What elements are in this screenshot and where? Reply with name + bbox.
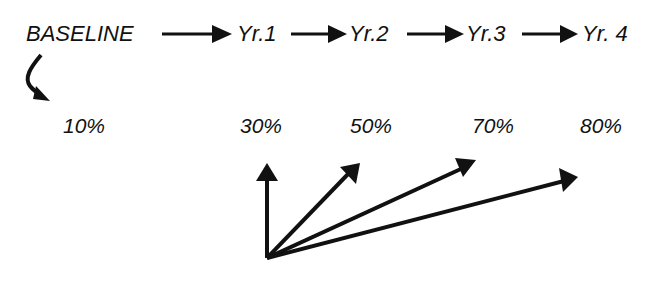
timeline-arrow-yr1-yr2	[291, 25, 347, 43]
vector-arrow-2	[267, 172, 350, 258]
percent-yr1: 30%	[240, 115, 282, 136]
stage-label-yr2: Yr.2	[349, 23, 389, 45]
stage-label-yr3: Yr.3	[466, 23, 506, 45]
curved-arrow-icon	[28, 55, 50, 101]
vector-fan	[256, 158, 578, 258]
stage-label-baseline: BASELINE	[26, 23, 134, 45]
stage-label-yr1: Yr.1	[237, 23, 277, 45]
percent-yr3: 70%	[472, 115, 514, 136]
percent-baseline: 10%	[63, 115, 105, 136]
percent-yr2: 50%	[350, 115, 392, 136]
stage-label-yr4: Yr. 4	[582, 23, 628, 45]
timeline-arrow-yr2-yr3	[407, 25, 464, 43]
timeline-arrow-yr3-yr4	[522, 25, 578, 43]
vector-arrow-4	[267, 181, 564, 258]
timeline-arrow-baseline-yr1	[162, 25, 232, 43]
percent-yr4: 80%	[580, 115, 622, 136]
